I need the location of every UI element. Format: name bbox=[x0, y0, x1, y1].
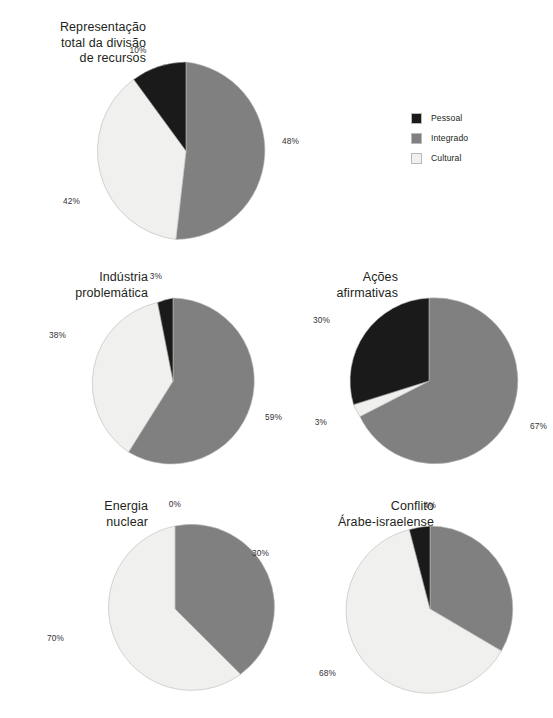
chart-representacao: Representação total da divisão de recurs… bbox=[0, 0, 340, 260]
pct-label-cultural-acoes: 3% bbox=[291, 417, 327, 427]
legend-item-integrado: Integrado bbox=[411, 129, 531, 147]
pct-label-pessoal-acoes: 30% bbox=[294, 315, 330, 325]
legend: Pessoal Integrado Cultural bbox=[411, 109, 531, 169]
pie-energia bbox=[85, 519, 265, 699]
legend-label-pessoal: Pessoal bbox=[431, 113, 462, 124]
legend-item-cultural: Cultural bbox=[411, 149, 531, 167]
legend-swatch-pessoal-icon bbox=[411, 113, 422, 124]
pct-label-cultural-conflito: 68% bbox=[300, 668, 336, 678]
chart-acoes: Ações afirmativas 30% 67% 3% bbox=[278, 262, 553, 482]
pct-label-integrado-representacao: 48% bbox=[282, 136, 318, 146]
pct-label-pessoal-industria: 3% bbox=[138, 271, 174, 281]
legend-label-cultural: Cultural bbox=[431, 153, 461, 164]
legend-label-integrado: Integrado bbox=[431, 133, 468, 144]
pie-slice-integrado bbox=[176, 62, 265, 239]
pie-conflito bbox=[340, 519, 520, 699]
legend-item-pessoal: Pessoal bbox=[411, 109, 531, 127]
pct-label-pessoal-energia: 0% bbox=[157, 499, 193, 509]
pie-chart-figure: Representação total da divisão de recurs… bbox=[0, 0, 553, 718]
pie-acoes bbox=[339, 291, 519, 471]
pct-label-cultural-representacao: 42% bbox=[44, 196, 80, 206]
pct-label-integrado-acoes: 67% bbox=[530, 421, 553, 431]
chart-industria: Indústria problemática 3% 59% 38% bbox=[0, 262, 285, 482]
legend-swatch-integrado-icon bbox=[411, 133, 422, 144]
pct-label-pessoal-conflito: 4% bbox=[412, 500, 448, 510]
pct-label-cultural-energia: 70% bbox=[28, 633, 64, 643]
chart-conflito: Conflito Árabe-israelense 4% 68% bbox=[278, 487, 553, 718]
pie-industria bbox=[83, 291, 263, 471]
pct-label-pessoal-representacao: 10% bbox=[120, 45, 156, 55]
pie-representacao bbox=[86, 51, 286, 251]
pct-label-cultural-industria: 38% bbox=[30, 330, 66, 340]
chart-energia: Energia nuclear 0% 30% 70% bbox=[0, 487, 285, 718]
legend-swatch-cultural-icon bbox=[411, 153, 422, 164]
